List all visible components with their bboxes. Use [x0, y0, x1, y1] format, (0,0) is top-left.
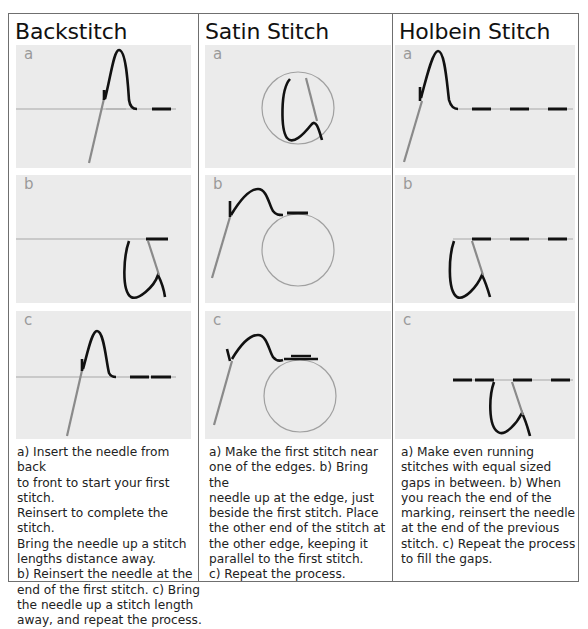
step-description: a) Make the first stitch near one of the… — [209, 445, 392, 583]
description-line: c) Repeat the process. — [209, 567, 392, 582]
needle-icon — [404, 101, 422, 162]
description-line: the other edge, keeping it — [209, 537, 392, 552]
column-title: Backstitch — [15, 19, 127, 44]
thread-loop — [420, 51, 458, 109]
satin-step-a-illustration — [205, 45, 391, 168]
column-backstitch: Backstitch a b c a) Insert the — [9, 13, 198, 582]
step-panel-a: a — [205, 45, 391, 168]
description-line: a) Insert the needle from back — [17, 445, 202, 476]
description-line: marking, reinsert the needle — [401, 506, 579, 521]
step-panel-a: a — [395, 45, 575, 168]
needle-icon — [512, 382, 523, 415]
description-line: Reinsert to complete the stitch. — [17, 506, 202, 537]
backstitch-step-c-illustration — [16, 311, 191, 439]
description-line: one of the edges. b) Bring the — [209, 460, 392, 491]
description-line: parallel to the first stitch. — [209, 552, 392, 567]
needle-icon — [148, 241, 159, 275]
step-description: a) Make even running stitches with equal… — [401, 445, 579, 567]
thread-loop — [104, 50, 137, 109]
step-panel-a: a — [16, 45, 191, 168]
backstitch-step-b-illustration — [16, 175, 191, 303]
description-line: away, and repeat the process. — [17, 613, 202, 628]
description-line: lengths distance away. — [17, 552, 202, 567]
holbein-step-a-illustration — [395, 45, 575, 168]
description-line: b) Reinsert the needle at the — [17, 567, 202, 582]
outline-circle — [264, 360, 336, 432]
description-line: you reach the end of the — [401, 491, 579, 506]
thread-loop — [490, 382, 530, 436]
outline-circle — [262, 214, 334, 286]
column-title: Holbein Stitch — [399, 19, 550, 44]
description-line: to front to start your first stitch. — [17, 476, 202, 507]
description-line: the needle up a stitch length — [17, 598, 202, 613]
satin-step-b-illustration — [205, 175, 391, 303]
step-panel-c: c — [395, 311, 575, 439]
column-holbein-stitch: Holbein Stitch a b c — [393, 13, 579, 582]
column-title: Satin Stitch — [205, 19, 329, 44]
step-panel-c: c — [205, 311, 391, 439]
needle-icon — [212, 217, 230, 278]
step-panel-b: b — [395, 175, 575, 303]
description-line: Bring the needle up a stitch — [17, 537, 202, 552]
holbein-step-b-illustration — [395, 175, 575, 303]
outline-circle — [262, 72, 334, 144]
thread-loop — [450, 241, 490, 298]
step-panel-b: b — [16, 175, 191, 303]
description-line: stitch. c) Repeat the process — [401, 537, 579, 552]
thread-loop — [282, 79, 322, 140]
description-line: end of the first stitch. c) Bring — [17, 583, 202, 598]
holbein-step-c-illustration — [395, 311, 575, 439]
thread-loop — [82, 331, 116, 377]
needle-icon — [214, 361, 232, 425]
description-line: a) Make the first stitch near — [209, 445, 392, 460]
thread-loop — [124, 241, 165, 298]
description-line: gaps in between. b) When — [401, 476, 579, 491]
description-line: needle up at the edge, just — [209, 491, 392, 506]
satin-step-c-illustration — [205, 311, 391, 439]
description-line: the other end of the stitch at — [209, 521, 392, 536]
description-line: to fill the gaps. — [401, 552, 579, 567]
backstitch-step-a-illustration — [16, 45, 191, 168]
needle-icon — [472, 241, 483, 275]
column-satin-stitch: Satin Stitch a b c a) Make the first sti… — [199, 13, 392, 582]
description-line: beside the first stitch. Place — [209, 506, 392, 521]
thread-loop — [230, 189, 283, 217]
needle-icon — [306, 78, 317, 121]
step-description: a) Insert the needle from back to front … — [17, 445, 202, 629]
description-line: at the end of the previous — [401, 521, 579, 536]
description-line: a) Make even running — [401, 445, 579, 460]
description-line: stitches with equal sized — [401, 460, 579, 475]
step-panel-b: b — [205, 175, 391, 303]
thread-loop — [227, 335, 283, 361]
needle-icon — [89, 90, 106, 163]
step-panel-c: c — [16, 311, 191, 439]
